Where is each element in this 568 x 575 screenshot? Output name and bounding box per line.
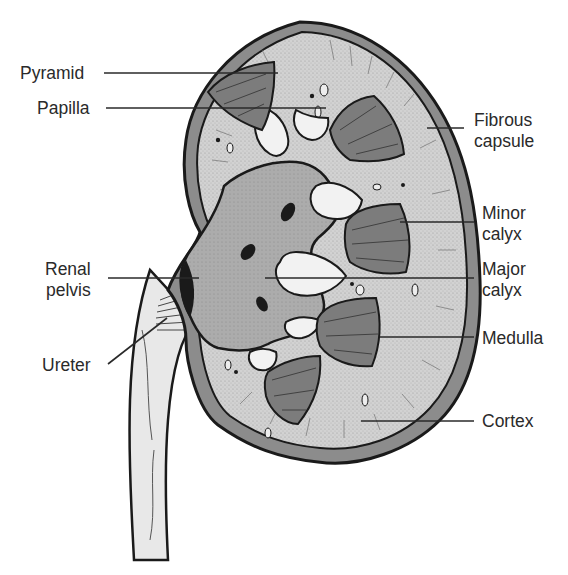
label-medulla: Medulla — [482, 328, 543, 349]
label-major-calyx: Major calyx — [482, 259, 526, 301]
label-pyramid: Pyramid — [20, 63, 84, 84]
label-fibrous-capsule: Fibrous capsule — [474, 110, 534, 152]
label-ureter: Ureter — [42, 355, 91, 376]
label-renal-pelvis: Renal pelvis — [45, 259, 91, 301]
kidney-diagram: PyramidPapillaFibrous capsuleMinor calyx… — [0, 0, 568, 575]
label-cortex: Cortex — [482, 411, 534, 432]
label-papilla: Papilla — [37, 98, 90, 119]
label-minor-calyx: Minor calyx — [482, 203, 526, 245]
